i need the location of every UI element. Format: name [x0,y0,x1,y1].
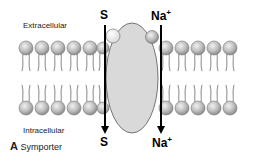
lipid-lower-right [159,85,237,115]
lipid-upper-left [19,41,109,71]
sodium-bottom-symbol: Na [152,136,167,150]
sodium-bound [146,31,159,44]
sodium-top: Na+ [151,8,171,23]
symporter-diagram: Extracellular Intracellular S Na+ S Na+ … [0,0,254,161]
sodium-top-symbol: Na [151,9,166,23]
sodium-bottom-charge: + [167,135,172,144]
panel-title: Symporter [20,142,62,152]
substrate-s-bound [106,29,120,43]
substrate-s-top: S [100,8,108,22]
panel-caption: A Symporter [10,140,62,152]
panel-letter: A [10,140,18,152]
lipid-upper-right [159,41,237,71]
lipid-lower-left [19,85,109,115]
intracellular-label: Intracellular [23,126,64,135]
sodium-bottom: Na+ [152,135,172,150]
substrate-s-bottom: S [100,135,108,149]
extracellular-label: Extracellular [23,21,67,30]
sodium-top-charge: + [166,8,171,17]
